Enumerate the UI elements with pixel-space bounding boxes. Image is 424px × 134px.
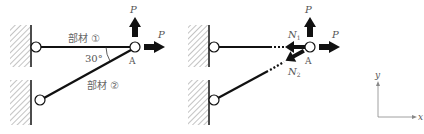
coordinate-axes: y x <box>374 70 423 122</box>
left-structure: 部材 ① 部材 ② 30° A P P <box>10 4 165 125</box>
load-up-label: P <box>129 4 137 15</box>
node-a-pin-fbd <box>305 42 315 52</box>
member-2-label: 部材 ② <box>87 79 119 91</box>
member-2-dotted <box>270 62 284 70</box>
load-arrow-right-icon <box>144 41 165 53</box>
angle-label: 30° <box>85 53 103 64</box>
load-arrow-up-icon <box>129 17 141 37</box>
fixed-wall-1 <box>10 25 31 67</box>
right-free-body: N1 N2 A P P <box>188 4 340 125</box>
member-1-label: 部材 ① <box>68 32 100 44</box>
wall-pin-1 <box>31 42 41 52</box>
wall-pin-4 <box>209 95 219 105</box>
node-a-label-fbd: A <box>304 56 312 66</box>
truss-free-body-diagram: 部材 ① 部材 ② 30° A P P <box>0 0 424 134</box>
fixed-wall-4 <box>188 80 209 125</box>
angle-arc <box>106 47 110 61</box>
load-right-label-fbd: P <box>331 29 339 40</box>
member-2-cut <box>218 71 268 98</box>
force-n1-label: N1 <box>287 29 301 41</box>
force-n2-label: N2 <box>287 66 301 78</box>
y-axis-label: y <box>374 70 381 80</box>
fixed-wall-3 <box>188 25 209 67</box>
fixed-wall-2 <box>10 80 31 125</box>
load-up-label-fbd: P <box>304 4 312 15</box>
node-a-label: A <box>128 56 136 66</box>
wall-pin-3 <box>209 42 219 52</box>
x-axis-label: x <box>418 112 423 122</box>
load-right-label: P <box>157 29 165 40</box>
wall-pin-2 <box>35 95 45 105</box>
node-a-pin <box>130 42 140 52</box>
load-arrow-right-icon-fbd <box>319 41 340 53</box>
load-arrow-up-icon-fbd <box>304 17 316 37</box>
